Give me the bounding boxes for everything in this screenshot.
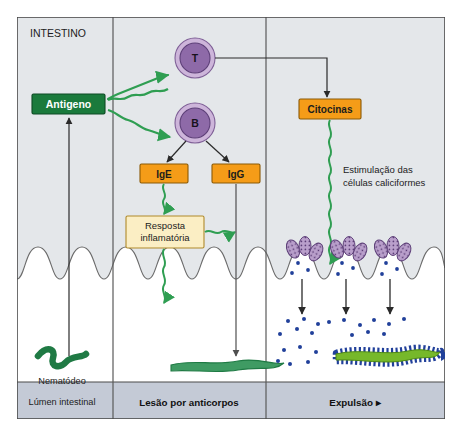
ige-label: IgE	[156, 169, 172, 180]
stimulation-line1: Estimulação das	[343, 164, 413, 175]
diagram-canvas: INTESTINO Antigeno Nematódeo Lúmen intes…	[16, 16, 446, 420]
node-ige[interactable]: IgE	[140, 164, 188, 183]
cytokines-label: Citocinas	[307, 104, 352, 115]
lumen-label: Lúmen intestinal	[29, 397, 96, 407]
node-inflammatory-response[interactable]: Resposta inflamatória	[126, 216, 204, 248]
t-cell[interactable]: T	[175, 38, 215, 78]
stimulation-line2: células caliciformes	[343, 177, 426, 188]
diagram-stage: INTESTINO Antigeno Nematódeo Lúmen intes…	[0, 0, 462, 444]
panel-title-intestino: INTESTINO	[30, 27, 86, 39]
footer-label-panel-middle: Lesão por anticorpos	[139, 397, 239, 408]
inflammatory-response-line1: Resposta	[145, 220, 186, 231]
antigen-label: Antigeno	[46, 98, 92, 110]
node-antigen[interactable]: Antigeno	[32, 94, 105, 114]
t-cell-label: T	[192, 52, 199, 64]
immune-response-diagram: INTESTINO Antigeno Nematódeo Lúmen intes…	[16, 16, 446, 420]
nematode-label: Nematódeo	[38, 376, 86, 386]
footer-label-panel-right: Expulsão ▸	[329, 397, 381, 408]
b-cell-label: B	[191, 117, 199, 129]
node-igg[interactable]: IgG	[212, 164, 260, 183]
inflammatory-response-line2: inflamatória	[140, 232, 190, 243]
b-cell[interactable]: B	[175, 103, 215, 143]
node-cytokines[interactable]: Citocinas	[299, 99, 361, 119]
igg-label: IgG	[228, 169, 245, 180]
